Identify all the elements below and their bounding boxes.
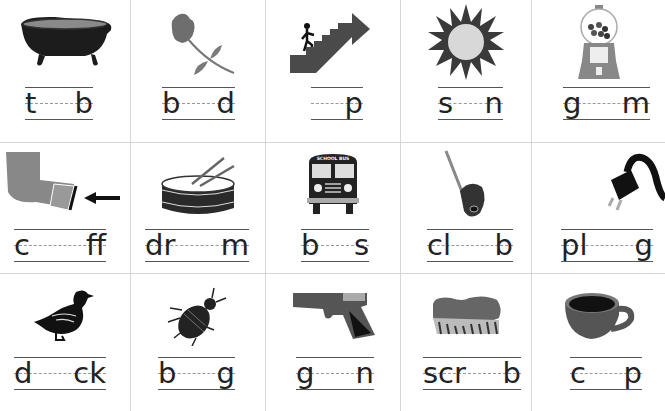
worksheet-cell-club: cl b (401, 143, 531, 273)
bus-sign-text: SCHOOL BUS (317, 156, 350, 161)
sun-icon (401, 6, 531, 78)
letter-part: cl (427, 227, 451, 263)
scrub-brush-icon (401, 280, 531, 352)
worksheet-cell-plug: pl g (532, 143, 665, 273)
letter-part: n (485, 85, 503, 121)
letter-part: t (25, 85, 36, 121)
letter-part: ck (73, 355, 106, 391)
handwriting-guide: cl b (427, 229, 513, 277)
letter-part: n (356, 355, 374, 391)
letter-part: g (563, 85, 581, 121)
handwriting-guide: p (311, 87, 363, 135)
letter-part: b (495, 227, 513, 263)
worksheet-cell-up: p (266, 0, 400, 142)
letter-part: b (503, 355, 521, 391)
duck-icon (0, 280, 130, 352)
handwriting-guide: c p (570, 357, 642, 405)
letter-part: scr (423, 355, 466, 391)
stairs-up-icon (266, 6, 400, 78)
handwriting-guide: scr b (423, 357, 521, 405)
letter-part: g (296, 355, 314, 391)
coffee-cup-icon (532, 280, 665, 352)
pistol-icon (266, 280, 400, 352)
handwriting-guide: dr m (145, 229, 249, 277)
worksheet-cell-scrub: scr b (401, 274, 531, 411)
letter-part: b (301, 227, 319, 263)
handwriting-guide: d ck (14, 357, 106, 405)
handwriting-guide: b s (301, 229, 369, 277)
worksheet-cell-duck: d ck (0, 274, 130, 411)
worksheet-cell-tub: t b (0, 0, 130, 142)
handwriting-guide: c ff (14, 229, 106, 277)
handwriting-guide: b d (162, 87, 235, 135)
handwriting-guide: g m (563, 87, 650, 135)
handwriting-guide: g n (296, 357, 374, 405)
letter-part: ff (86, 227, 106, 263)
letter-part: pl (561, 227, 587, 263)
worksheet-cell-gum: g m (532, 0, 665, 142)
shirt-cuff-arrow-icon (0, 149, 130, 221)
worksheet-cell-cuff: c ff (0, 143, 130, 273)
beetle-icon (131, 280, 265, 352)
letter-part: g (635, 227, 653, 263)
handwriting-guide: pl g (561, 229, 653, 277)
letter-part: m (622, 85, 650, 121)
letter-part: p (345, 85, 363, 121)
letter-part: d (14, 355, 32, 391)
letter-part: d (217, 85, 235, 121)
letter-part: s (438, 85, 453, 121)
handwriting-guide: s n (438, 87, 503, 135)
letter-part: m (221, 227, 249, 263)
handwriting-guide: b g (158, 357, 235, 405)
letter-part: p (624, 355, 642, 391)
letter-part: dr (145, 227, 175, 263)
worksheet-cell-cup: c p (532, 274, 665, 411)
golf-club-icon (401, 149, 531, 221)
gumball-machine-icon (532, 6, 665, 78)
letter-part: b (158, 355, 176, 391)
worksheet-cell-drum: dr m (131, 143, 265, 273)
worksheet-cell-bug: b g (131, 274, 265, 411)
letter-part: c (570, 355, 586, 391)
electric-plug-icon (532, 149, 665, 221)
letter-part: c (14, 227, 30, 263)
worksheet-cell-gun: g n (266, 274, 400, 411)
worksheet-cell-sun: s n (401, 0, 531, 142)
handwriting-guide: t b (25, 87, 93, 135)
letter-part: s (354, 227, 369, 263)
letter-part: b (162, 85, 180, 121)
rose-icon (131, 6, 265, 78)
letter-part: b (75, 85, 93, 121)
phonics-worksheet-grid: t b b d (0, 0, 665, 411)
drum-icon (131, 149, 265, 221)
bathtub-icon (0, 6, 130, 78)
letter-part: g (217, 355, 235, 391)
school-bus-icon: SCHOOL BUS (266, 149, 400, 221)
worksheet-cell-bus: SCHOOL BUS b s (266, 143, 400, 273)
worksheet-cell-bud: b d (131, 0, 265, 142)
